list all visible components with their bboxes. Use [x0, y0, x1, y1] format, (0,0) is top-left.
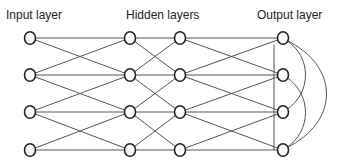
connections	[30, 38, 283, 150]
hidden-2-neuron	[175, 69, 186, 82]
input-neuron	[25, 144, 36, 157]
output-lateral-connections	[274, 40, 327, 150]
hidden-1-neuron	[125, 32, 136, 45]
output-neuron	[278, 144, 289, 157]
hidden-1-neuron	[125, 106, 136, 119]
input-neuron	[25, 69, 36, 82]
hidden-1-neuron	[125, 144, 136, 157]
hidden-1-neuron	[125, 69, 136, 82]
output-recurrent-curve	[286, 40, 327, 148]
output-neuron	[278, 32, 289, 45]
output-neuron	[278, 69, 289, 82]
neural-network-diagram	[0, 0, 363, 163]
hidden-2-neuron	[175, 144, 186, 157]
input-neuron	[25, 32, 36, 45]
input-neuron	[25, 106, 36, 119]
hidden-2-neuron	[175, 32, 186, 45]
hidden-2-neuron	[175, 106, 186, 119]
output-neuron	[278, 106, 289, 119]
